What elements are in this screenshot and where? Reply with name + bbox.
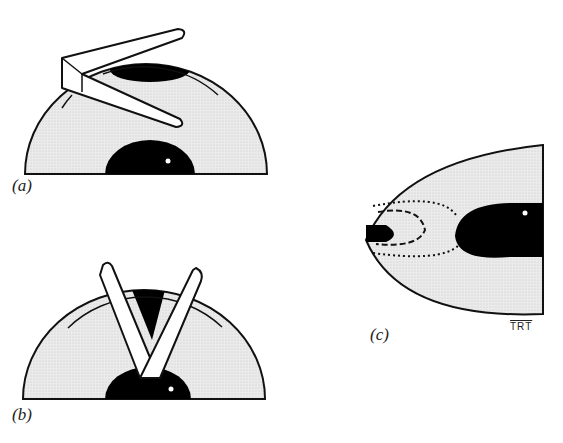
diagram-canvas	[0, 0, 563, 443]
panel-a-label: (a)	[12, 176, 32, 196]
artist-signature: TRT	[510, 321, 532, 332]
panel-b-figure	[23, 263, 265, 431]
panel-a-figure	[25, 29, 267, 208]
panel-c-label: (c)	[370, 325, 389, 345]
panel-b-label: (b)	[12, 405, 32, 425]
panel-c-figure	[366, 145, 543, 314]
